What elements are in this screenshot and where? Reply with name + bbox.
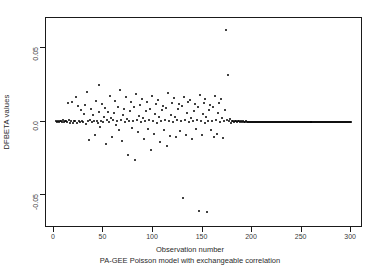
data-point (113, 112, 115, 114)
data-point (161, 109, 163, 111)
data-point (179, 130, 181, 132)
data-point (104, 107, 106, 109)
x-axis-tick (152, 227, 153, 232)
data-point (122, 114, 124, 116)
data-point (90, 108, 92, 110)
data-point (71, 101, 73, 103)
data-point (131, 127, 133, 129)
figure-subcaption: PA-GEE Poisson model with exchangeable c… (0, 256, 380, 265)
data-point (164, 119, 166, 121)
data-point (137, 131, 139, 133)
data-point (186, 112, 188, 114)
data-point (153, 133, 155, 135)
data-point (183, 96, 185, 98)
data-point (195, 128, 197, 130)
data-point (98, 84, 100, 86)
data-point (199, 94, 201, 96)
data-point (230, 122, 232, 124)
data-point (211, 120, 213, 122)
x-axis-tick-label: 150 (196, 233, 208, 240)
data-point (205, 116, 207, 118)
data-point (191, 138, 193, 140)
data-point (215, 119, 217, 121)
data-point (133, 106, 135, 108)
data-point (152, 120, 154, 122)
data-point (144, 120, 146, 122)
data-point (109, 95, 111, 97)
data-point (209, 104, 211, 106)
data-point (220, 98, 222, 100)
data-point (120, 119, 122, 121)
data-point (160, 120, 162, 122)
data-point (143, 138, 145, 140)
data-point (163, 129, 165, 131)
data-point (97, 122, 99, 124)
data-point (174, 116, 176, 118)
x-axis-tick-label: 200 (245, 233, 257, 240)
data-point (149, 108, 151, 110)
x-axis-title: Observation number (0, 245, 380, 254)
data-point (103, 116, 105, 118)
x-axis: 050100150200250300 (45, 227, 362, 237)
data-point (95, 100, 97, 102)
data-point (141, 98, 143, 100)
data-point (227, 74, 229, 76)
data-point (203, 102, 205, 104)
data-point (200, 120, 202, 122)
data-point (196, 119, 198, 121)
data-point (107, 111, 109, 113)
data-point (147, 128, 149, 130)
data-point (151, 95, 153, 97)
data-point (94, 134, 96, 136)
data-point (204, 98, 206, 100)
data-point (124, 121, 126, 123)
data-point (185, 134, 187, 136)
data-point (101, 103, 103, 105)
data-point (82, 121, 84, 123)
data-point (221, 117, 223, 119)
y-axis-tick (40, 47, 45, 48)
data-point (193, 110, 195, 112)
data-point (182, 197, 184, 199)
x-axis-tick-label: 100 (146, 233, 158, 240)
data-point (98, 111, 100, 113)
x-axis-tick-label: 50 (99, 233, 107, 240)
data-point (86, 91, 88, 93)
data-point (102, 121, 104, 123)
data-point (77, 105, 79, 107)
data-point (214, 95, 216, 97)
data-point (148, 119, 150, 121)
data-point (139, 104, 141, 106)
x-axis-tick (301, 227, 302, 232)
y-axis-title: DFBETA values (2, 95, 11, 150)
data-point (108, 121, 110, 123)
data-point (187, 101, 189, 103)
data-point (225, 29, 227, 31)
data-point (156, 122, 158, 124)
data-point (198, 210, 200, 212)
data-point (202, 113, 204, 115)
x-axis-tick (102, 227, 103, 232)
data-point (212, 106, 214, 108)
data-point (121, 140, 123, 142)
data-point (72, 122, 74, 124)
y-axis: 0.050.0-0.05 (37, 17, 45, 227)
data-point (173, 97, 175, 99)
dfbeta-scatter-figure: DFBETA for Observation Number 0.050.0-0.… (0, 0, 380, 278)
y-axis-tick (40, 121, 45, 122)
y-axis-tick-label: -0.05 (33, 194, 40, 210)
data-point (208, 109, 210, 111)
x-axis-tick (251, 227, 252, 232)
data-point (158, 116, 160, 118)
x-axis-tick (350, 227, 351, 232)
data-point (85, 123, 87, 125)
data-point (116, 120, 118, 122)
data-point (134, 159, 136, 161)
plot-data-area (46, 18, 361, 226)
data-point (350, 121, 352, 123)
x-axis-tick-label: 0 (51, 233, 55, 240)
data-point (157, 99, 159, 101)
data-point (216, 133, 218, 135)
data-point (127, 154, 129, 156)
data-point (92, 114, 94, 116)
